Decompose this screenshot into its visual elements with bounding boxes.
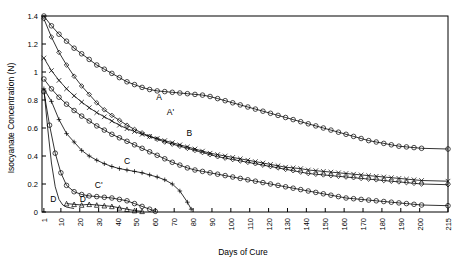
x-axis-tick-label: 170	[359, 218, 368, 231]
y-axis-tick-label: 0.6	[28, 124, 38, 133]
x-axis-tick-label: 30	[95, 218, 104, 226]
x-axis-tick-label: 100	[227, 218, 236, 231]
series-line-B2	[44, 79, 448, 206]
series-B2	[42, 77, 451, 208]
x-axis-tick-label: 10	[57, 218, 66, 226]
x-axis-tick-label: 200	[416, 218, 425, 231]
x-axis-tick-label: 215	[444, 218, 453, 231]
series-A'	[42, 17, 451, 188]
x-axis-tick-label: 140	[302, 218, 311, 231]
series-C'	[42, 89, 158, 213]
series-annotation-C: C	[124, 156, 130, 166]
y-axis-title: Isocyanate Concentration (N)	[6, 63, 16, 174]
series-annotation-C-prime: C'	[95, 180, 103, 190]
x-axis-tick-label: 110	[246, 218, 255, 230]
y-axis-tick-label: 1.2	[28, 40, 38, 49]
y-axis-tick-label: 1.4	[28, 12, 38, 21]
x-axis-tick-label: 190	[397, 218, 406, 231]
series-annotation-A: A	[156, 92, 162, 102]
series-line-D'	[67, 204, 143, 212]
x-axis-tick-label: 180	[378, 218, 387, 231]
y-axis-tick-label: 0	[34, 208, 38, 217]
isocyanate-concentration-line-chart: 00.20.40.60.811.21.411020304050607080901…	[0, 0, 457, 264]
series-annotation-D-prime: D'	[80, 194, 88, 204]
x-axis-tick-label: 1	[40, 218, 49, 222]
chart-container: 00.20.40.60.811.21.411020304050607080901…	[0, 0, 457, 264]
x-axis-tick-label: 50	[132, 218, 141, 226]
x-axis-tick-label: 60	[151, 218, 160, 226]
series-annotation-D: D	[50, 194, 56, 204]
series-annotation-A-prime: A'	[167, 107, 175, 117]
x-axis-tick-label: 150	[321, 218, 330, 231]
x-axis-tick-label: 20	[76, 218, 85, 226]
x-axis-tick-label: 120	[265, 218, 274, 231]
y-axis-tick-label: 0.2	[28, 180, 38, 189]
series-A	[42, 14, 451, 152]
x-axis-tick-label: 40	[114, 218, 123, 226]
y-axis-tick-label: 0.4	[28, 152, 38, 161]
series-line-C'	[44, 92, 155, 212]
x-axis-tick-label: 160	[340, 218, 349, 231]
y-axis-tick-label: 0.8	[28, 96, 38, 105]
x-axis-tick-label: 130	[283, 218, 292, 231]
series-B	[42, 56, 451, 184]
x-axis-tick-label: 90	[208, 218, 217, 226]
x-axis-tick-label: 70	[170, 218, 179, 226]
series-line-A	[44, 16, 448, 149]
y-axis-tick-label: 1	[34, 68, 38, 77]
x-axis-tick-label: 80	[189, 218, 198, 226]
series-annotation-B: B	[186, 128, 192, 138]
plot-frame	[42, 16, 448, 212]
series-layer	[42, 14, 451, 214]
x-axis-title: Days of Cure	[218, 247, 268, 257]
